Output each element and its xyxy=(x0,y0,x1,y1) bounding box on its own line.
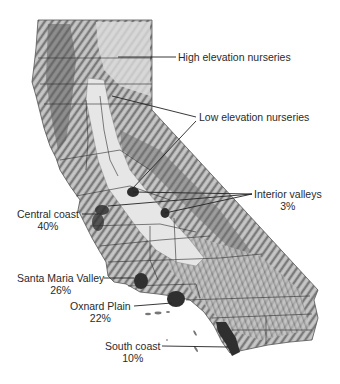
label-name: Central coast xyxy=(17,208,79,220)
label-percent: 40% xyxy=(17,220,79,232)
label-name: High elevation nurseries xyxy=(178,51,291,63)
label-santa-maria-valley: Santa Maria Valley 26% xyxy=(17,272,104,296)
region-santa-maria xyxy=(134,273,148,289)
label-name: Oxnard Plain xyxy=(70,300,131,312)
label-name: Santa Maria Valley xyxy=(17,272,104,284)
label-percent: 10% xyxy=(105,352,160,364)
label-low-elevation-nurseries: Low elevation nurseries xyxy=(199,111,309,123)
label-central-coast: Central coast 40% xyxy=(17,208,79,232)
label-name: Interior valleys xyxy=(254,188,322,200)
label-name: South coast xyxy=(105,340,160,352)
label-high-elevation-nurseries: High elevation nurseries xyxy=(178,51,291,63)
label-name: Low elevation nurseries xyxy=(199,111,309,123)
label-interior-valleys: Interior valleys 3% xyxy=(254,188,322,212)
region-oxnard xyxy=(167,291,185,307)
label-percent: 26% xyxy=(17,284,104,296)
label-south-coast: South coast 10% xyxy=(105,340,160,364)
label-percent: 22% xyxy=(70,312,131,324)
label-oxnard-plain: Oxnard Plain 22% xyxy=(70,300,131,324)
label-percent: 3% xyxy=(254,200,322,212)
